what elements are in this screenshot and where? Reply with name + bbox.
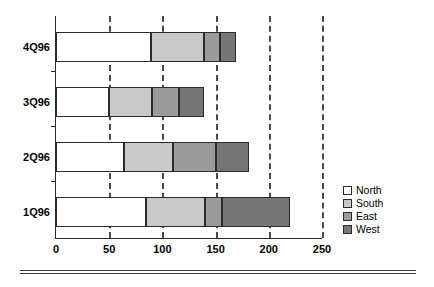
bar-segment-1Q96-east: [205, 197, 222, 227]
bottom-divider: [20, 270, 416, 274]
y-axis-label-4Q96: 4Q96: [0, 41, 50, 53]
legend-swatch-east-icon: [343, 212, 352, 221]
y-axis-line: [55, 16, 56, 238]
divider-line: [20, 270, 416, 271]
x-axis-label-0: 0: [53, 243, 59, 255]
y-axis-label-3Q96: 3Q96: [0, 96, 50, 108]
x-axis-line: [55, 238, 322, 239]
legend-item-east: East: [343, 210, 383, 222]
bar-segment-4Q96-west: [220, 32, 236, 62]
y-axis-label-text: 4Q96: [23, 41, 50, 53]
bar-segment-2Q96-south: [124, 142, 173, 172]
legend-label-east: East: [356, 211, 377, 222]
y-axis-tick: [51, 126, 56, 127]
bar-segment-1Q96-south: [146, 197, 205, 227]
stacked-bar-chart: 4Q96 3Q96 2Q96 1Q96 0 50 100 150 200 250…: [0, 0, 434, 287]
legend: North South East West: [343, 184, 383, 236]
legend-label-south: South: [356, 198, 383, 209]
bar-segment-2Q96-west: [216, 142, 249, 172]
bar-segment-1Q96-west: [222, 197, 290, 227]
bar-segment-3Q96-south: [109, 87, 152, 117]
plot-area: [56, 16, 322, 238]
y-axis-label-text: 2Q96: [23, 151, 50, 163]
legend-swatch-west-icon: [343, 225, 352, 234]
y-axis-label-text: 1Q96: [23, 206, 50, 218]
bar-segment-4Q96-south: [151, 32, 204, 62]
bar-segment-3Q96-west: [179, 87, 203, 117]
legend-label-west: West: [356, 224, 380, 235]
bar-segment-4Q96-east: [204, 32, 220, 62]
y-axis-tick: [51, 71, 56, 72]
bar-segment-3Q96-north: [56, 87, 109, 117]
bar-segment-2Q96-north: [56, 142, 124, 172]
legend-item-north: North: [343, 184, 383, 196]
legend-label-north: North: [356, 185, 382, 196]
gridline-250: [322, 16, 324, 238]
bar-segment-3Q96-east: [152, 87, 180, 117]
x-axis-label-200: 200: [260, 243, 278, 255]
legend-swatch-south-icon: [343, 199, 352, 208]
y-axis-label-text: 3Q96: [23, 96, 50, 108]
y-axis-label-2Q96: 2Q96: [0, 151, 50, 163]
x-axis-label-50: 50: [103, 243, 115, 255]
legend-swatch-north-icon: [343, 186, 352, 195]
y-axis-label-1Q96: 1Q96: [0, 206, 50, 218]
x-axis-label-100: 100: [153, 243, 171, 255]
x-axis-label-150: 150: [206, 243, 224, 255]
legend-item-west: West: [343, 223, 383, 235]
x-axis-label-250: 250: [313, 243, 331, 255]
y-axis-tick: [51, 181, 56, 182]
bar-segment-4Q96-north: [56, 32, 151, 62]
divider-line: [20, 273, 416, 274]
bar-segment-2Q96-east: [173, 142, 216, 172]
legend-item-south: South: [343, 197, 383, 209]
bar-segment-1Q96-north: [56, 197, 146, 227]
